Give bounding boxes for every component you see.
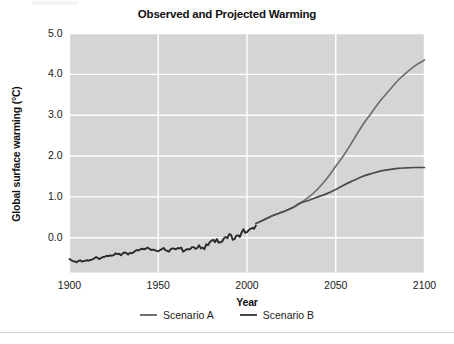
- legend-label-scenario-a: Scenario A: [163, 309, 214, 321]
- chart-figure: Observed and Projected Warming Global su…: [0, 0, 454, 344]
- legend-entry-scenario-b[interactable]: Scenario B: [240, 309, 314, 321]
- legend-label-scenario-b: Scenario B: [263, 309, 314, 321]
- legend-swatch-scenario-a: [140, 314, 157, 316]
- legend-swatch-scenario-b: [240, 314, 257, 316]
- page-edge-line: [0, 332, 454, 333]
- legend-entry-scenario-a[interactable]: Scenario A: [140, 309, 214, 321]
- plot-area: [0, 0, 454, 344]
- chart-legend: Scenario A Scenario B: [0, 309, 454, 321]
